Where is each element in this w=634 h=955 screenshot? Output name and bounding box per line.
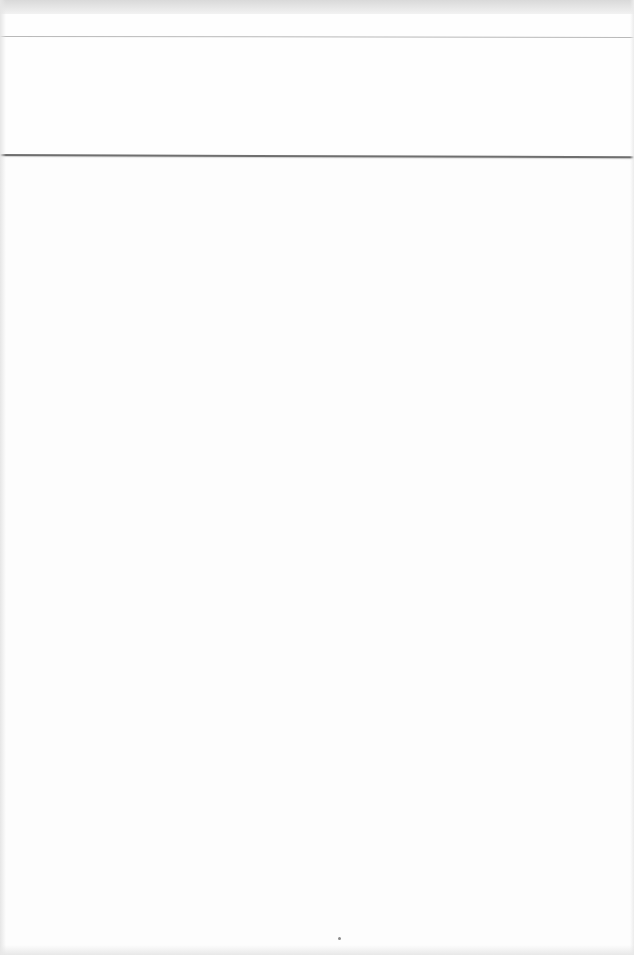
top-binding-strip <box>0 0 634 14</box>
bottom-paper-edge <box>0 945 634 955</box>
header-area <box>0 14 634 154</box>
notepad-page <box>0 0 634 955</box>
scan-speck <box>338 937 341 940</box>
right-paper-edge <box>630 0 634 955</box>
writing-area <box>0 157 634 945</box>
left-paper-edge <box>0 0 6 955</box>
